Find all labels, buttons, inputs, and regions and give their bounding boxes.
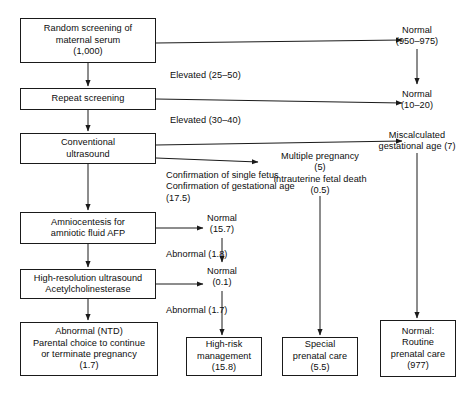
node-line: (15.8) — [212, 362, 236, 373]
label-confirmation-notes: Confirmation of single fetusConfirmation… — [166, 170, 295, 204]
node-line: Repeat screening — [52, 93, 125, 104]
label-line: (0.1) — [207, 277, 237, 288]
label-line: Normal — [207, 213, 237, 224]
node-line: or terminate pregnancy — [41, 349, 137, 360]
node-normal-routine-prenatal-care[interactable]: Normal:Routineprenatal care(977) — [380, 320, 456, 377]
connector-random-to-normal-950 — [156, 40, 402, 43]
label-elevated-25-50: Elevated (25–50) — [170, 70, 241, 81]
node-line: prenatal care — [391, 349, 445, 360]
node-line: ultrasound — [66, 149, 109, 160]
node-special-prenatal-care[interactable]: Specialprenatal care(5.5) — [282, 337, 358, 376]
node-line: prenatal care — [293, 351, 347, 362]
label-line: Confirmation of gestational age — [166, 181, 295, 192]
node-line: Normal: — [402, 326, 435, 337]
node-conventional-ultrasound[interactable]: Conventionalultrasound — [20, 133, 156, 164]
node-line: Parental choice to continue — [33, 338, 145, 349]
label-line: Confirmation of single fetus — [166, 170, 295, 181]
node-repeat-screening[interactable]: Repeat screening — [20, 88, 156, 110]
node-random-screening[interactable]: Random screening ofmaternal serum(1,000) — [20, 18, 156, 63]
label-line: Miscalculated — [378, 130, 455, 141]
connector-repeat-to-normal-10-20 — [156, 99, 402, 103]
node-line: High-resolution ultrasound — [34, 273, 143, 284]
label-abnormal-1-8: Abnormal (1.8) — [166, 249, 227, 260]
node-line: Special — [305, 339, 335, 350]
node-line: (977) — [407, 360, 429, 371]
node-abnormal-ntd[interactable]: Abnormal (NTD)Parental choice to continu… — [20, 322, 158, 376]
label-line: gestational age (7) — [378, 141, 455, 152]
label-line: Elevated (30–40) — [170, 115, 241, 126]
flowchart-canvas: Random screening ofmaternal serum(1,000)… — [0, 0, 471, 401]
node-line: maternal serum — [56, 35, 121, 46]
label-abnormal-1-7: Abnormal (1.7) — [166, 305, 227, 316]
node-line: (1,000) — [73, 46, 102, 57]
node-line: (5.5) — [310, 362, 329, 373]
node-line: management — [197, 351, 251, 362]
node-line: amniotic fluid AFP — [51, 228, 125, 239]
node-line: High-risk — [206, 339, 243, 350]
label-line: (10–20) — [401, 100, 433, 111]
node-line: Routine — [402, 337, 434, 348]
label-normal-0-1: Normal(0.1) — [207, 266, 237, 289]
node-line: Random screening of — [44, 23, 132, 34]
label-line: Abnormal (1.8) — [166, 249, 227, 260]
label-line: Normal — [207, 266, 237, 277]
connector-conventional-to-multiple — [156, 158, 258, 162]
node-amniocentesis[interactable]: Amniocentesis foramniotic fluid AFP — [20, 212, 156, 244]
node-high-resolution-ultrasound[interactable]: High-resolution ultrasoundAcetylcholines… — [20, 269, 156, 299]
connector-conventional-to-miscalculated — [156, 141, 402, 145]
label-line: (950–975) — [396, 36, 438, 47]
label-miscalculated-gestational-age: Miscalculatedgestational age (7) — [378, 130, 455, 153]
node-high-risk-management[interactable]: High-riskmanagement(15.8) — [186, 337, 262, 376]
label-normal-950-975: Normal(950–975) — [396, 25, 438, 48]
node-line: Amniocentesis for — [51, 217, 125, 228]
node-line: Conventional — [61, 137, 115, 148]
label-line: Elevated (25–50) — [170, 70, 241, 81]
label-line: Multiple pregnancy — [273, 151, 366, 162]
label-line: (15.7) — [207, 224, 237, 235]
label-normal-10-20: Normal(10–20) — [401, 89, 433, 112]
node-line: (1.7) — [79, 360, 98, 371]
node-line: Acetylcholinesterase — [45, 284, 130, 295]
label-line: Abnormal (1.7) — [166, 305, 227, 316]
node-line: Abnormal (NTD) — [55, 326, 123, 337]
label-line: Normal — [396, 25, 438, 36]
label-line: (17.5) — [166, 193, 295, 204]
label-normal-15-7: Normal(15.7) — [207, 213, 237, 236]
label-elevated-30-40: Elevated (30–40) — [170, 115, 241, 126]
label-line: Normal — [401, 89, 433, 100]
